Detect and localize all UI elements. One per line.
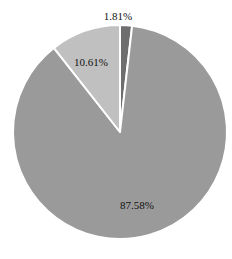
pie-chart: 1.81% 87.58% 10.61% — [0, 0, 232, 259]
slice-label-b: 87.58% — [120, 199, 154, 211]
slice-label-c: 10.61% — [74, 56, 108, 68]
slice-label-a: 1.81% — [104, 10, 132, 22]
